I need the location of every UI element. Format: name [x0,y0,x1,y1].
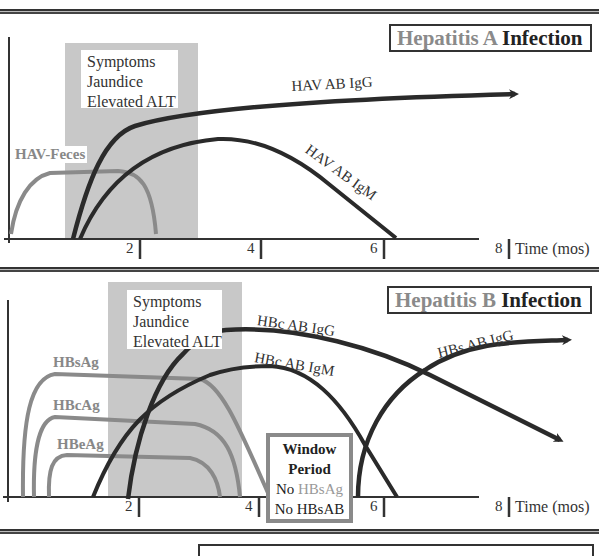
hbv-symptom-1: Symptoms [133,292,216,312]
hbv-tick-label-2: 2 [125,498,133,515]
window-period-line4: No HBsAB [270,499,349,519]
middle-divider [0,267,599,272]
hbeag-label: HBeAg [57,436,104,453]
hbv-tick-label-6: 6 [370,498,378,515]
next-panel-edge [198,544,594,556]
hbv-title-grey: Hepatitis B [395,288,496,312]
hav-title-box: Hepatitis A Infection [389,24,592,52]
hbv-symptom-2: Jaundice [133,312,216,332]
hbv-tick-label-4: 4 [245,498,253,515]
hav-feces-label: HAV-Feces [13,146,87,163]
window-period-box: Window Period No HBsAg No HBsAB [266,433,353,523]
hbcag-label: HBcAg [53,397,100,414]
hav-time-label: Time (mos) [515,240,590,258]
window-period-no: No [276,481,294,497]
hav-symptom-1: Symptoms [87,52,172,72]
hav-symptom-3: Elevated ALT [87,92,172,112]
hav-title-dark: Infection [502,26,583,50]
window-period-line1: Window [270,439,349,459]
bottom-divider [0,529,599,534]
hav-symptom-2: Jaundice [87,72,172,92]
hbv-title-box: Hepatitis B Infection [387,286,592,314]
hav-tick-label-2: 2 [126,240,134,257]
hav-tick-label-4: 4 [247,240,255,257]
hbv-symptoms-box: Symptoms Jaundice Elevated ALT [127,290,222,349]
window-period-line3: No HBsAg [270,479,349,499]
hbv-title-dark: Infection [501,288,582,312]
hav-title-grey: Hepatitis A [397,26,497,50]
window-period-line2: Period [270,459,349,479]
hav-symptoms-box: Symptoms Jaundice Elevated ALT [81,50,178,108]
hbv-time-label: Time (mos) [515,498,590,516]
hbv-symptom-3: Elevated ALT [133,332,216,352]
hbs-igg-curve [358,340,568,497]
window-period-hbsag: HBsAg [298,481,343,497]
hav-tick-label-8: 8 [495,240,503,257]
hav-tick-label-6: 6 [370,240,378,257]
hbv-tick-label-8: 8 [495,498,503,515]
hbsag-label: HBsAg [53,354,99,371]
